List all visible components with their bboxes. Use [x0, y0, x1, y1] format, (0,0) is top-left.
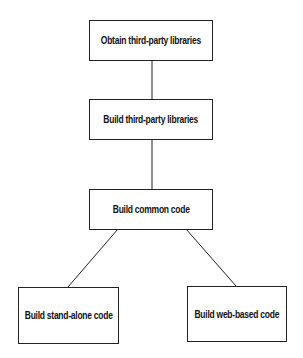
node-build-web-based-code: Build web-based code — [187, 286, 287, 342]
node-build-stand-alone-code: Build stand-alone code — [18, 287, 119, 344]
node-obtain-third-party-libraries: Obtain third-party libraries — [89, 20, 213, 61]
node-label: Build third-party libraries — [104, 114, 199, 125]
node-build-third-party-libraries: Build third-party libraries — [89, 99, 213, 140]
node-build-common-code: Build common code — [89, 189, 213, 230]
node-label: Obtain third-party libraries — [101, 35, 201, 46]
node-label: Build web-based code — [195, 309, 280, 320]
node-label: Build common code — [113, 204, 190, 215]
edge-common-to-web — [186, 229, 236, 286]
edge-common-to-standalone — [68, 229, 118, 287]
node-label: Build stand-alone code — [25, 310, 113, 321]
